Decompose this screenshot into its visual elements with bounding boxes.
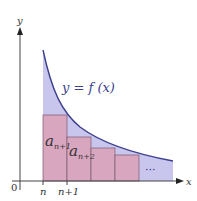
y-axis-arrow-icon bbox=[17, 27, 23, 35]
ellipsis: ··· bbox=[145, 164, 156, 177]
rect-4 bbox=[115, 155, 139, 181]
svg-text:n+2: n+2 bbox=[78, 152, 95, 161]
x-axis-label: x bbox=[186, 176, 192, 187]
svg-text:a: a bbox=[45, 132, 54, 150]
integral-test-diagram: y x 0 n n+1 y = f (x) a n+1 a n+2 ··· bbox=[0, 0, 197, 201]
origin-label: 0 bbox=[11, 182, 17, 193]
curve-label: y = f (x) bbox=[61, 80, 115, 95]
svg-text:a: a bbox=[69, 142, 78, 160]
y-axis-label: y bbox=[16, 15, 23, 26]
tick-label-n1: n+1 bbox=[58, 186, 79, 197]
x-axis-arrow-icon bbox=[176, 178, 184, 184]
tick-label-n: n bbox=[40, 186, 46, 197]
